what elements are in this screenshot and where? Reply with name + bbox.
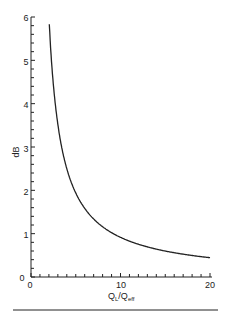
y-tick-label-5: 5: [23, 57, 28, 67]
y-tick-label-4: 4: [23, 100, 28, 110]
x-ticks: [31, 273, 210, 277]
y-tick-label-2: 2: [23, 187, 28, 197]
x-axis-label: QL/Qeff: [108, 291, 135, 302]
y-ticks: [31, 17, 35, 277]
y-tick-label-1: 1: [23, 230, 28, 240]
y-tick-label-6: 6: [23, 13, 28, 23]
chart: 0 1 2 3 4 5 6 0 10 20 dB QL/Qeff: [0, 0, 226, 313]
data-curve: [49, 24, 210, 257]
x-tick-label-10: 10: [116, 280, 126, 290]
y-axis-label: dB: [11, 146, 21, 157]
y-tick-label-3: 3: [23, 144, 28, 154]
x-tick-label-20: 20: [205, 280, 215, 290]
x-tick-label-0: 0: [27, 280, 32, 290]
y-tick-label-0: 0: [19, 273, 24, 283]
